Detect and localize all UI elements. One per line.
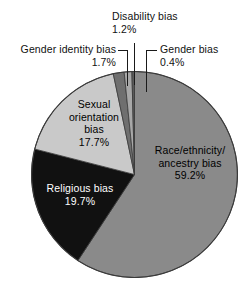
slice-label-disability-bias-name: Disability bias — [112, 10, 178, 22]
slice-label-sexual-orientation-bias-percent: 17.7% — [58, 136, 130, 149]
slice-label-disability-bias-percent: 1.2% — [112, 23, 178, 36]
slice-label-gender-identity-bias-percent: 1.7% — [8, 56, 116, 69]
slice-label-sexual-orientation-bias-line3: bias — [58, 123, 130, 136]
slice-label-religious-bias-percent: 19.7% — [36, 195, 124, 208]
slice-label-race-percent: 59.2% — [144, 169, 236, 182]
pie-chart-figure: Disability bias 1.2% Gender identity bia… — [0, 0, 251, 293]
leader-line-disability — [134, 43, 135, 85]
leader-line-gender-horizontal — [146, 50, 157, 51]
leader-line-gender-vertical — [146, 50, 147, 92]
slice-label-gender-bias: Gender bias 0.4% — [160, 43, 218, 68]
slice-label-sexual-orientation-bias-line2: orientation — [58, 111, 130, 124]
slice-label-religious-bias-name: Religious bias — [36, 182, 124, 195]
slice-label-sexual-orientation-bias: Sexual orientation bias 17.7% — [58, 98, 130, 148]
slice-label-race-line2: ancestry bias — [144, 157, 236, 170]
slice-label-gender-bias-percent: 0.4% — [160, 56, 218, 69]
leader-line-gender-identity-vertical — [127, 50, 128, 86]
slice-label-gender-identity-bias-name: Gender identity bias — [21, 43, 116, 55]
slice-label-sexual-orientation-bias-line1: Sexual — [58, 98, 130, 111]
slice-label-disability-bias: Disability bias 1.2% — [112, 10, 178, 35]
slice-label-race-ethnicity-ancestry-bias: Race/ethnicity/ ancestry bias 59.2% — [144, 144, 236, 182]
slice-label-gender-bias-name: Gender bias — [160, 43, 218, 55]
slice-label-race-line1: Race/ethnicity/ — [144, 144, 236, 157]
slice-label-gender-identity-bias: Gender identity bias 1.7% — [8, 43, 116, 68]
slice-label-religious-bias: Religious bias 19.7% — [36, 182, 124, 207]
